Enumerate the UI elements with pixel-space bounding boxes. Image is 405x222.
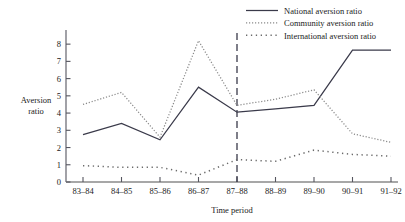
y-tick-label: 8: [57, 39, 61, 49]
x-tick-label: 89–90: [303, 186, 324, 196]
x-tick-label: 86–87: [188, 186, 209, 196]
y-tick-label: 2: [57, 143, 61, 153]
y-axis-title-line2: ratio: [28, 106, 44, 116]
y-axis-title-line1: Aversion: [21, 95, 52, 105]
y-tick-label: 3: [57, 125, 61, 135]
y-axis-ticks: 012345678: [57, 39, 71, 187]
chart-canvas: 01234567883–8484–8585–8686–8787–8888–898…: [0, 0, 405, 222]
x-tick-label: 88–89: [265, 186, 286, 196]
legend-label-1: Community aversion ratio: [284, 18, 373, 28]
x-tick-label: 90–91: [342, 186, 363, 196]
x-axis-title: Time period: [211, 205, 253, 215]
axes: [66, 30, 398, 182]
y-tick-label: 0: [57, 177, 61, 187]
x-tick-label: 85–86: [149, 186, 170, 196]
aversion-ratio-line-chart: 01234567883–8484–8585–8686–8787–8888–898…: [0, 0, 405, 222]
y-tick-label: 5: [57, 91, 61, 101]
x-tick-label: 83–84: [72, 186, 94, 196]
legend: National aversion ratioCommunity aversio…: [246, 6, 376, 41]
y-tick-label: 4: [57, 108, 62, 118]
y-tick-label: 6: [57, 74, 61, 84]
y-tick-label: 1: [57, 160, 61, 170]
x-tick-label: 84–85: [111, 186, 132, 196]
legend-label-2: International aversion ratio: [284, 31, 376, 41]
x-tick-label: 87–88: [226, 186, 247, 196]
y-tick-label: 7: [57, 56, 61, 66]
x-tick-label: 91–92: [380, 186, 401, 196]
legend-label-0: National aversion ratio: [284, 6, 362, 16]
